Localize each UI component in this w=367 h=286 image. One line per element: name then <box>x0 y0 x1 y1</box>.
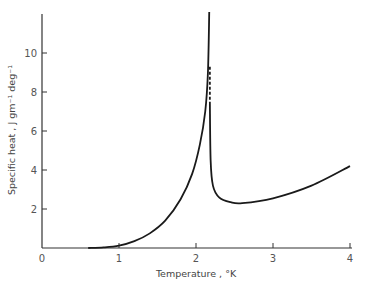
x-axis-title: Temperature , °K <box>155 268 237 279</box>
y-tick-label: 2 <box>31 204 37 215</box>
y-axis-title: Specific heat , J gm⁻¹ deg⁻¹ <box>6 65 17 195</box>
x-tick-label: 1 <box>116 253 122 264</box>
x-tick-label: 3 <box>270 253 276 264</box>
y-tick-label: 8 <box>31 87 37 98</box>
x-tick-label: 0 <box>39 253 45 264</box>
y-tick-label: 10 <box>24 48 37 59</box>
curve-line <box>88 12 209 248</box>
x-ticks: 01234 <box>39 243 353 264</box>
curve-line <box>210 102 350 204</box>
y-tick-label: 6 <box>31 126 37 137</box>
x-tick-label: 4 <box>347 253 353 264</box>
x-tick-label: 2 <box>193 253 199 264</box>
y-ticks: 246810 <box>24 48 47 215</box>
y-tick-label: 4 <box>31 165 37 176</box>
chart: 01234 246810 Temperature , °K Specific h… <box>0 0 367 286</box>
specific-heat-curve <box>88 12 350 248</box>
